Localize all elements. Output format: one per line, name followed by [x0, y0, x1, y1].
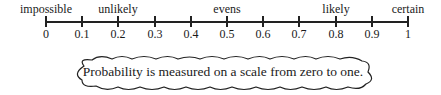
- tick-label: 0.4: [184, 27, 199, 42]
- tick-label: 0.9: [365, 27, 380, 42]
- callout-text: Probability is measured on a scale from …: [70, 64, 376, 80]
- likelihood-word-label: unlikely: [98, 2, 137, 17]
- tick-label: 0.6: [256, 27, 271, 42]
- tick-mark: [371, 16, 373, 27]
- likelihood-word-label: likely: [322, 2, 349, 17]
- likelihood-word-label: certain: [392, 2, 425, 17]
- tick-label: 0.8: [329, 27, 344, 42]
- tick-label: 0.3: [148, 27, 163, 42]
- tick-mark: [117, 16, 119, 27]
- tick-mark: [407, 16, 409, 27]
- likelihood-word-label: impossible: [20, 2, 72, 17]
- tick-mark: [190, 16, 192, 27]
- tick-label: 0.1: [75, 27, 90, 42]
- tick-mark: [226, 16, 228, 27]
- tick-mark: [81, 16, 83, 27]
- likelihood-word-label: evens: [213, 2, 240, 17]
- probability-scale: 00.10.20.30.40.50.60.70.80.91 impossible…: [0, 0, 441, 50]
- tick-label: 0.7: [292, 27, 307, 42]
- tick-label: 0.5: [220, 27, 235, 42]
- speech-cloud-callout: Probability is measured on a scale from …: [70, 54, 376, 92]
- tick-label: 0: [43, 27, 49, 42]
- tick-mark: [45, 16, 47, 27]
- tick-mark: [262, 16, 264, 27]
- tick-label: 0.2: [111, 27, 126, 42]
- tick-mark: [154, 16, 156, 27]
- tick-mark: [335, 16, 337, 27]
- tick-label: 1: [405, 27, 411, 42]
- tick-mark: [298, 16, 300, 27]
